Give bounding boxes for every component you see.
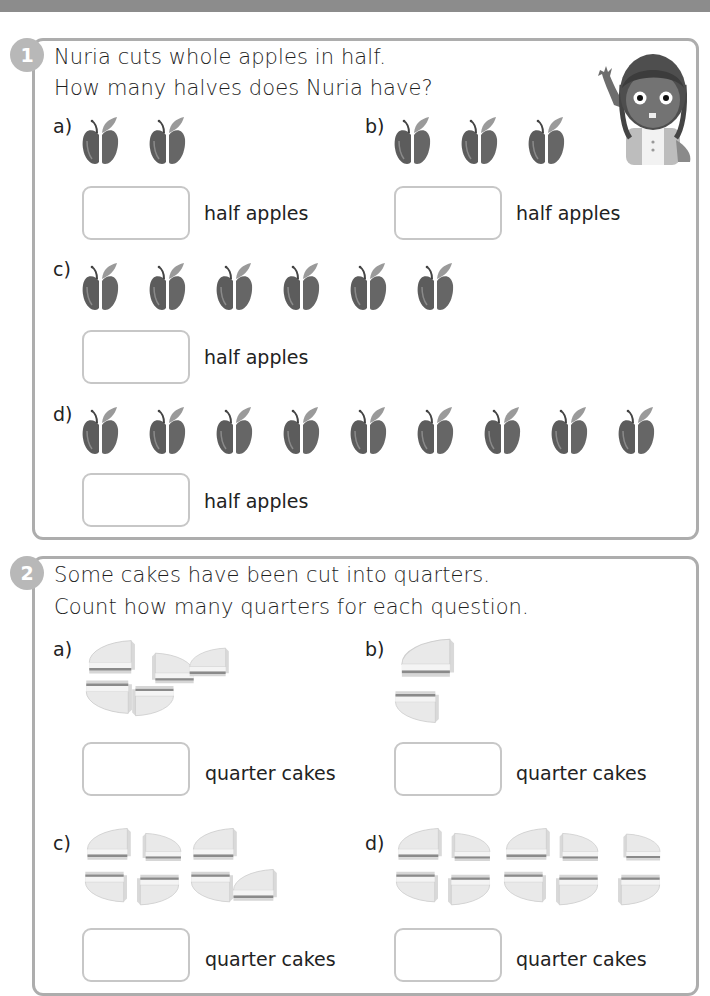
q1-part-d-answer-box[interactable] (82, 473, 190, 527)
q2-part-d-label: d) (365, 832, 384, 854)
question-2-text-line-1: Some cakes have been cut into quarters. (54, 560, 490, 591)
q2-part-a-answer-box[interactable] (82, 742, 190, 796)
half-apple-icon (527, 115, 565, 165)
question-2-text-line-2: Count how many quarters for each questio… (54, 592, 529, 623)
cake-quarter-icon (85, 872, 127, 902)
question-2-number-badge: 2 (10, 556, 44, 590)
cake-quarter-icon (506, 829, 549, 860)
q1-part-a-answer-box[interactable] (82, 186, 190, 240)
cake-quarter-icon (143, 833, 181, 861)
cake-quarter-icon (87, 829, 130, 860)
half-apple-icon (349, 405, 387, 455)
cake-quarter-icon (402, 639, 454, 677)
cake-quarter-icon (191, 872, 233, 902)
cake-quarter-icon (190, 648, 229, 676)
half-apple-icon (550, 405, 588, 455)
q1-part-d-unit: half apples (204, 490, 308, 512)
half-apple-icon (483, 405, 521, 455)
cake-quarter-icon (448, 875, 490, 905)
cake-quarter-icon (396, 872, 438, 902)
q1-part-a-apples (81, 115, 186, 165)
q1-part-c-apples (81, 261, 454, 311)
q1-part-c-unit: half apples (204, 346, 308, 368)
cake-quarter-icon (89, 641, 135, 674)
q2-part-c-answer-box[interactable] (82, 928, 190, 982)
q2-part-b-label: b) (365, 638, 384, 660)
q2-part-b-unit: quarter cakes (516, 762, 647, 784)
q2-part-a-cakes (82, 637, 242, 719)
cake-quarter-icon (556, 875, 598, 905)
half-apple-icon (215, 405, 253, 455)
top-header-band (0, 0, 710, 12)
cake-quarter-icon (560, 833, 598, 861)
cake-quarter-icon (395, 691, 438, 722)
half-apple-icon (215, 261, 253, 311)
half-apple-icon (81, 261, 119, 311)
q2-part-c-cakes (82, 822, 282, 910)
q2-part-a-unit: quarter cakes (205, 762, 336, 784)
question-1-number-badge: 1 (10, 38, 44, 72)
question-1-text-line-2: How many halves does Nuria have? (54, 73, 433, 104)
half-apple-icon (148, 261, 186, 311)
q1-part-a-unit: half apples (204, 202, 308, 224)
q2-part-c-label: c) (53, 832, 71, 854)
girl-character-icon (594, 50, 704, 165)
cake-quarter-icon (452, 833, 490, 861)
q2-part-b-answer-box[interactable] (394, 742, 502, 796)
half-apple-icon (460, 115, 498, 165)
half-apple-icon (416, 405, 454, 455)
cake-quarter-icon (504, 872, 546, 902)
half-apple-icon (416, 261, 454, 311)
q2-part-c-unit: quarter cakes (205, 948, 336, 970)
cake-quarter-icon (132, 686, 173, 716)
q2-part-a-label: a) (53, 638, 72, 660)
cake-quarter-icon (193, 829, 236, 860)
half-apple-icon (617, 405, 655, 455)
q1-part-b-answer-box[interactable] (394, 186, 502, 240)
cake-quarter-icon (398, 829, 441, 860)
half-apple-icon (81, 115, 119, 165)
q2-part-d-cakes (393, 822, 663, 910)
half-apple-icon (349, 261, 387, 311)
half-apple-icon (148, 405, 186, 455)
half-apple-icon (393, 115, 431, 165)
q2-part-d-answer-box[interactable] (394, 928, 502, 982)
cake-quarter-icon (618, 875, 660, 905)
q1-part-d-label: d) (53, 403, 72, 425)
cake-quarter-icon (137, 875, 179, 905)
q2-part-b-cakes (392, 635, 472, 735)
cake-quarter-icon (623, 834, 660, 860)
cake-quarter-icon (233, 870, 276, 901)
q2-part-d-unit: quarter cakes (516, 948, 647, 970)
q1-part-c-label: c) (53, 258, 71, 280)
q1-part-b-label: b) (365, 115, 384, 137)
half-apple-icon (282, 261, 320, 311)
cake-quarter-icon (86, 680, 132, 713)
question-1-text-line-1: Nuria cuts whole apples in half. (54, 42, 386, 73)
q1-part-c-answer-box[interactable] (82, 330, 190, 384)
half-apple-icon (282, 405, 320, 455)
q1-part-d-apples (81, 405, 655, 455)
q1-part-a-label: a) (53, 115, 72, 137)
cake-quarter-icon (152, 653, 194, 683)
half-apple-icon (81, 405, 119, 455)
half-apple-icon (148, 115, 186, 165)
q1-part-b-apples (393, 115, 565, 165)
q1-part-b-unit: half apples (516, 202, 620, 224)
